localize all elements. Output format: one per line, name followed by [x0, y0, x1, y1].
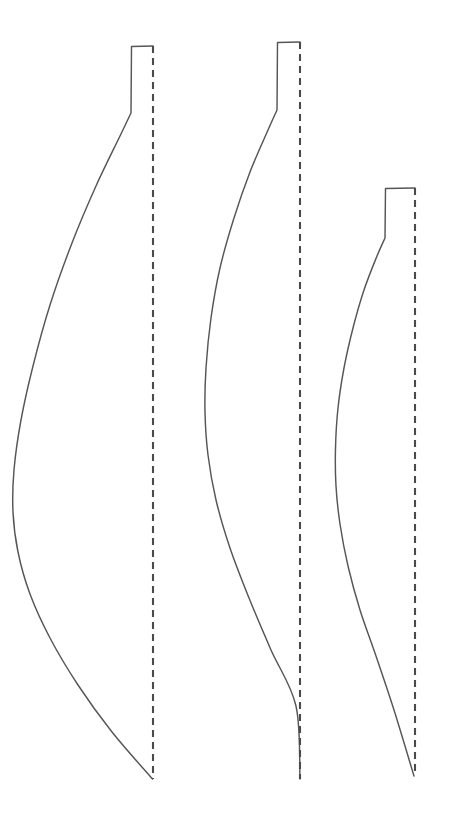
- pattern-diagram-canvas: [0, 0, 451, 828]
- pattern-diagram-svg: [0, 0, 451, 828]
- diagram-background: [0, 0, 451, 828]
- footer-caption: [0, 822, 451, 828]
